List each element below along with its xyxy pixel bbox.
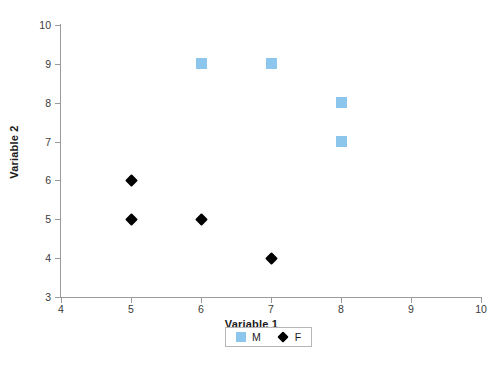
y-tick-label: 6 <box>29 175 51 186</box>
data-point-m[interactable] <box>266 58 277 69</box>
y-tick-label: 9 <box>29 59 51 70</box>
y-tick-label: 4 <box>29 253 51 264</box>
y-tick-mark <box>55 103 60 104</box>
y-tick-mark <box>55 258 60 259</box>
x-tick-label: 8 <box>326 304 356 315</box>
x-tick-label: 5 <box>116 304 146 315</box>
chart-legend: M F <box>225 327 312 347</box>
x-tick-label: 4 <box>46 304 76 315</box>
legend-diamond-icon <box>277 331 289 343</box>
data-point-f[interactable] <box>125 213 138 226</box>
data-point-f[interactable] <box>125 174 138 187</box>
data-point-f[interactable] <box>195 213 208 226</box>
y-tick-label: 8 <box>29 98 51 109</box>
legend-entry-f[interactable]: F <box>277 331 301 343</box>
data-point-m[interactable] <box>336 97 347 108</box>
data-point-f[interactable] <box>265 252 278 265</box>
legend-entry-m[interactable]: M <box>236 332 261 343</box>
y-tick-label: 3 <box>29 292 51 303</box>
data-point-m[interactable] <box>336 136 347 147</box>
x-tick-label: 10 <box>466 304 496 315</box>
legend-diamond-shape <box>277 331 288 342</box>
data-point-m[interactable] <box>196 58 207 69</box>
y-tick-mark <box>55 180 60 181</box>
y-tick-mark <box>55 142 60 143</box>
x-tick-label: 7 <box>256 304 286 315</box>
x-tick-label: 6 <box>186 304 216 315</box>
scatter-chart: 109876543 45678910 Variable 1 Variable 2… <box>0 0 503 365</box>
y-tick-mark <box>55 64 60 65</box>
legend-label-m: M <box>252 332 261 343</box>
y-tick-mark <box>55 25 60 26</box>
y-tick-mark <box>55 219 60 220</box>
x-tick-label: 9 <box>396 304 426 315</box>
y-tick-label: 5 <box>29 214 51 225</box>
y-tick-label: 7 <box>29 137 51 148</box>
legend-square-icon <box>236 332 246 342</box>
y-tick-mark <box>55 297 60 298</box>
plot-area <box>61 25 481 297</box>
y-axis-title: Variable 2 <box>8 107 20 197</box>
legend-label-f: F <box>295 332 301 343</box>
y-tick-label: 10 <box>29 20 51 31</box>
